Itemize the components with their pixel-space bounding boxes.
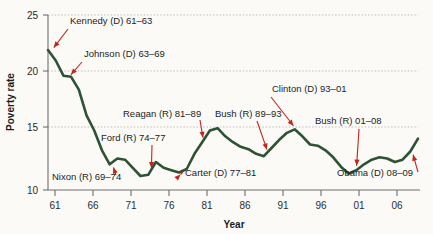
annotation-label-nixon: Nixon (R) 69–74 [52,171,121,182]
annotation-label-obama: Obama (D) 08–09 [337,167,413,178]
annotation-label-reagan: Reagan (R) 81–89 [123,108,201,119]
y-tick-label-20: 20 [27,66,39,77]
annotation-arrowhead-obama [412,155,417,161]
poverty-rate-chart-figure: 25 20 15 10 61 66 71 76 81 86 91 96 01 0… [0,0,433,234]
x-tick-label-01: 01 [353,200,365,211]
x-tick-label-96: 96 [315,200,327,211]
annotation-arrowhead-bush43 [354,160,359,166]
annotation-bush43: Bush (R) 01–08 [315,115,382,166]
annotation-bush41: Bush (R) 89–93 [215,108,282,150]
annotation-nixon: Nixon (R) 69–74 [52,167,121,182]
x-tick-label-91: 91 [277,200,289,211]
y-tick-label-25: 25 [27,10,39,21]
x-tick-label-86: 86 [239,200,251,211]
annotation-label-bush43: Bush (R) 01–08 [315,115,382,126]
annotation-carter: Carter (D) 77–81 [174,167,256,181]
x-tick-label-71: 71 [125,200,137,211]
annotation-label-carter: Carter (D) 77–81 [185,167,256,178]
x-tick-label-06: 06 [391,200,403,211]
x-tick-label-81: 81 [201,200,213,211]
annotation-label-clinton: Clinton (D) 93–01 [272,83,346,94]
x-tick-label-61: 61 [49,200,61,211]
annotation-arrowhead-carter [174,175,180,181]
x-tick-label-76: 76 [163,200,175,211]
annotation-label-kennedy: Kennedy (D) 61–63 [70,15,152,26]
annotation-label-bush41: Bush (R) 89–93 [215,108,282,119]
annotation-arrowhead-bush41 [263,143,268,150]
y-axis-title: Poverty rate [5,73,16,131]
x-tick-label-66: 66 [87,200,99,211]
annotation-label-ford: Ford (R) 74–77 [101,132,165,143]
y-tick-label-10: 10 [27,185,39,196]
annotation-label-johnson: Johnson (D) 63–69 [84,48,165,59]
annotation-kennedy: Kennedy (D) 61–63 [54,15,153,48]
chart-canvas: 25 20 15 10 61 66 71 76 81 86 91 96 01 0… [0,0,433,234]
x-tick-labels-group: 61 66 71 76 81 86 91 96 01 06 [49,200,403,211]
x-axis-title: Year [223,219,244,230]
y-tick-labels-group: 25 20 15 10 [27,10,39,196]
annotation-arrowhead-reagan [199,131,204,137]
annotation-arrowhead-kennedy [54,41,60,47]
y-tick-label-15: 15 [27,122,39,133]
